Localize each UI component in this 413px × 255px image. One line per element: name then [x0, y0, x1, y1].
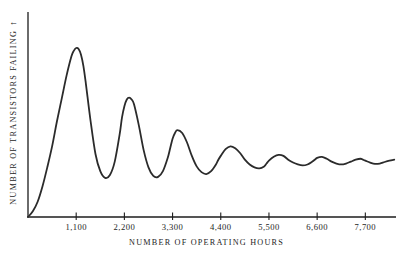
x-tick-label-5500: 5,500 [258, 222, 280, 232]
plot-svg [26, 6, 400, 220]
x-axis-tick-labels: 1,1002,2003,3004,4005,5006,6007,700 [0, 222, 413, 238]
y-axis-arrow-icon: ↑ [8, 21, 18, 26]
plot-area [26, 6, 400, 220]
x-tick-label-6600: 6,600 [306, 222, 328, 232]
chart-container: NUMBER OF TRANSISTORS FAILING↑ 1,1002,20… [0, 0, 413, 255]
x-tick-label-1100: 1,100 [65, 222, 87, 232]
x-tick-label-4400: 4,400 [210, 222, 232, 232]
x-tick-label-3300: 3,300 [162, 222, 184, 232]
x-axis-tick-marks [76, 213, 365, 221]
x-axis-label: NUMBER OF OPERATING HOURS [0, 238, 413, 247]
data-series-line [28, 48, 394, 217]
y-axis-label-text: NUMBER OF TRANSISTORS FAILING [9, 29, 18, 204]
x-tick-label-2200: 2,200 [114, 222, 136, 232]
y-axis-label-container: NUMBER OF TRANSISTORS FAILING↑ [0, 0, 26, 225]
y-axis-label: NUMBER OF TRANSISTORS FAILING↑ [8, 21, 18, 204]
x-tick-label-7700: 7,700 [355, 222, 377, 232]
